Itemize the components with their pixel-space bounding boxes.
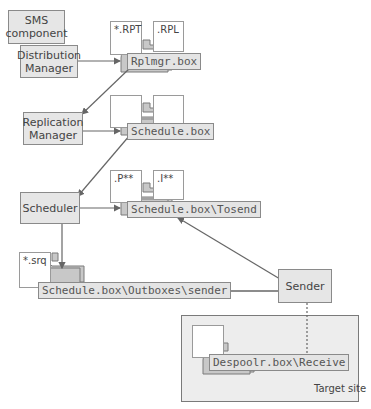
folder-outboxes-label: Schedule.box\Outboxes\sender (38, 282, 231, 299)
arrow-tosend-to-sender (180, 219, 285, 282)
distribution-manager-box: Distribution Manager (20, 45, 78, 78)
folder-receive-label: Despoolr.box\Receive (209, 354, 349, 371)
folder-rplmgr-label: Rplmgr.box (127, 53, 201, 70)
file-i: .I** (153, 170, 184, 200)
file-rpt: *.RPT (110, 21, 142, 55)
file-p: .P** (110, 170, 142, 203)
scheduler-box: Scheduler (20, 192, 80, 224)
diagram-canvas: Target site (0, 0, 371, 409)
replication-manager-box: Replication Manager (23, 112, 83, 145)
sender-box: Sender (278, 269, 332, 303)
sms-component-label: SMS component (8, 10, 65, 44)
file-doc-blank-2 (153, 95, 184, 125)
file-rpl: .RPL (153, 21, 184, 52)
folder-tosend-label: Schedule.box\Tosend (127, 201, 261, 218)
folder-schedule-label: Schedule.box (127, 123, 214, 140)
